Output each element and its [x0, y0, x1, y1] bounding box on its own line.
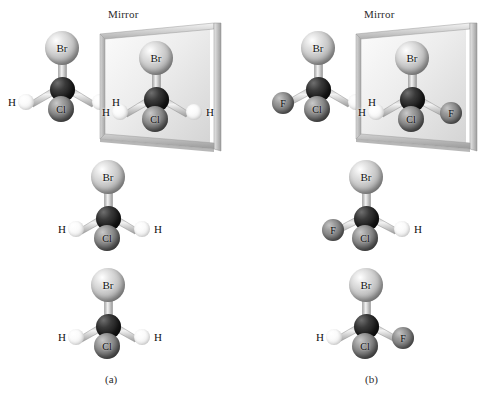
atom-br: Br	[91, 268, 125, 302]
atom-f-left: F	[322, 219, 344, 241]
atom-h-right: H	[394, 221, 410, 237]
mirror-label: Mirror	[108, 8, 139, 20]
atom-cl: Cl	[94, 333, 120, 359]
atom-cl: Cl	[398, 106, 424, 132]
atom-h-right: H	[134, 329, 150, 345]
atom-br: Br	[395, 41, 429, 75]
mirror-label: Mirror	[364, 8, 395, 20]
atom-h-left: H	[326, 329, 342, 345]
atom-h-right: H	[186, 104, 202, 120]
atom-h-left: H	[68, 221, 84, 237]
atom-cl: Cl	[352, 333, 378, 359]
molecule-b-superimposed: Br Cl H F	[320, 263, 416, 363]
atom-br: Br	[349, 160, 383, 194]
molecule-b-rotated: Br Cl F H	[320, 155, 416, 255]
atom-h-right: H	[134, 221, 150, 237]
atom-h-left: H	[68, 329, 84, 345]
atom-br: Br	[301, 31, 335, 65]
atom-cl: Cl	[304, 96, 330, 122]
caption-panel-b: (b)	[365, 373, 378, 385]
molecule-b-reflection: Br Cl H F	[366, 36, 462, 136]
atom-br: Br	[349, 268, 383, 302]
molecule-a-rotated: Br Cl H H	[62, 155, 158, 255]
atom-br: Br	[45, 31, 79, 65]
chirality-figure: Br Cl H H Mirror	[0, 0, 483, 397]
molecule-a-object: Br Cl H H	[16, 26, 112, 126]
molecule-a-reflection: Br Cl H H	[110, 36, 206, 136]
atom-f-left: F	[272, 92, 294, 114]
atom-br: Br	[91, 160, 125, 194]
atom-cl: Cl	[352, 225, 378, 251]
atom-cl: Cl	[94, 225, 120, 251]
atom-f-right: F	[440, 102, 462, 124]
caption-panel-a: (a)	[105, 373, 117, 385]
atom-cl: Cl	[48, 96, 74, 122]
atom-h-left: H	[18, 94, 34, 110]
molecule-a-superimposed: Br Cl H H	[62, 263, 158, 363]
molecule-b-object: Br Cl F H	[272, 26, 368, 126]
atom-cl: Cl	[142, 106, 168, 132]
atom-f-right: F	[392, 327, 414, 349]
atom-br: Br	[139, 41, 173, 75]
